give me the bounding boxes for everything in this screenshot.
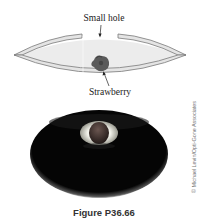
device-photo <box>0 104 208 204</box>
strawberry-label: Strawberry <box>80 87 140 97</box>
small-hole-label: Small hole <box>76 13 132 23</box>
strawberry-arrow-icon <box>103 71 109 86</box>
strawberry-image <box>89 122 109 144</box>
figure-caption: Figure P36.66 <box>0 207 208 218</box>
photo-credit: © Michael Levin/Opti-Gone Associates <box>188 92 200 202</box>
hole-shadow <box>83 143 115 149</box>
hole-arrow-icon <box>98 25 101 38</box>
